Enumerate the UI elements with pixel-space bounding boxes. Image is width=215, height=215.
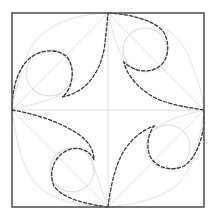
diagonal-bottom-right — [108, 110, 204, 207]
inner-curve-top-right — [108, 13, 124, 60]
geometric-diagram — [0, 0, 215, 215]
diagonal-top-right — [108, 13, 204, 110]
